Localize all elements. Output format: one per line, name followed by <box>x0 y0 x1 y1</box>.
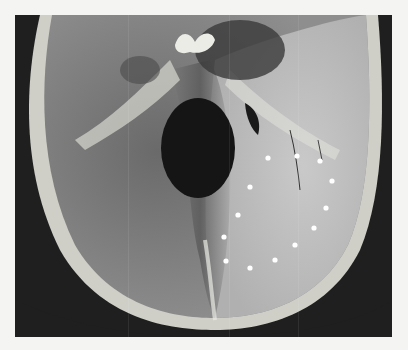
landmark-dot <box>292 242 297 247</box>
landmark-dot <box>272 257 277 262</box>
landmark-markers <box>15 15 392 337</box>
landmark-dot <box>247 184 252 189</box>
landmark-dot <box>311 225 316 230</box>
skull-base-photo <box>15 15 392 337</box>
landmark-dot <box>265 155 270 160</box>
landmark-dot <box>223 258 228 263</box>
landmark-dot <box>235 212 240 217</box>
landmark-dot <box>247 265 252 270</box>
landmark-dot <box>294 153 299 158</box>
landmark-dot <box>329 178 334 183</box>
landmark-dot <box>221 234 226 239</box>
landmark-dot <box>317 158 322 163</box>
landmark-dot <box>323 205 328 210</box>
